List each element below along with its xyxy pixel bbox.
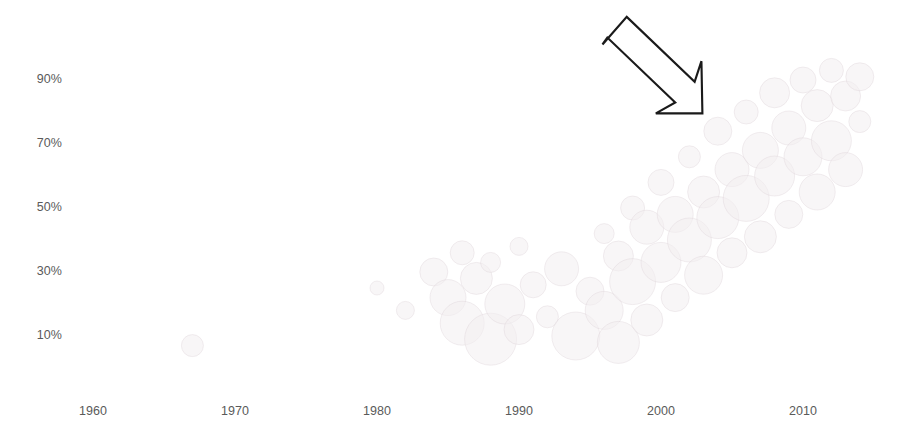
plot-area (0, 0, 907, 448)
bubble (610, 259, 656, 305)
bubble (742, 132, 778, 168)
bubble (723, 175, 769, 221)
x-axis-tick-label: 1970 (200, 405, 270, 418)
x-axis-tick-label: 1990 (484, 405, 554, 418)
y-axis-tick-label: 50% (18, 201, 62, 214)
bubble (430, 280, 466, 316)
bubble (597, 321, 639, 363)
bubble (450, 241, 474, 265)
bubble (585, 291, 623, 329)
bubble (760, 78, 790, 108)
bubble (520, 272, 546, 298)
bubble (697, 197, 739, 239)
bubble (420, 258, 448, 286)
bubble (396, 301, 414, 319)
bubble (641, 242, 681, 282)
bubble (846, 63, 874, 91)
bubble (667, 218, 711, 262)
bubble (510, 237, 528, 255)
bubble (717, 238, 747, 268)
bubble (603, 241, 633, 271)
bubble (831, 81, 861, 111)
bubble (772, 111, 806, 145)
bubble (688, 176, 720, 208)
bubble (621, 196, 645, 220)
bubble (775, 200, 803, 228)
x-axis-tick-label: 2010 (768, 405, 838, 418)
bubble (790, 67, 816, 93)
bubble (784, 138, 822, 176)
y-axis-tick-label: 70% (18, 137, 62, 150)
bubble (440, 301, 484, 345)
bubble (536, 306, 558, 328)
y-axis-tick-label: 30% (18, 265, 62, 278)
bubble (460, 262, 492, 294)
bubble (799, 174, 835, 210)
bubble (481, 252, 501, 272)
bubble (685, 256, 723, 294)
bubble (552, 312, 600, 360)
x-axis-tick-label: 1960 (58, 405, 128, 418)
bubble (829, 153, 863, 187)
bubble (181, 335, 203, 357)
bubble (545, 252, 579, 286)
bubble (485, 284, 525, 324)
bubble (661, 284, 689, 312)
x-axis-tick-label: 1980 (342, 405, 412, 418)
bubble (744, 221, 776, 253)
x-axis-tick-label: 2000 (626, 405, 696, 418)
bubble (678, 146, 700, 168)
bubble (594, 224, 614, 244)
bubble (630, 210, 664, 244)
bubble (631, 304, 663, 336)
bubble (370, 281, 384, 295)
bubble (504, 315, 534, 345)
y-axis-tick-label: 90% (18, 73, 62, 86)
bubble (849, 111, 871, 133)
bubble (755, 156, 795, 196)
bubble (811, 121, 851, 161)
bubble (465, 313, 517, 365)
bubble (648, 169, 674, 195)
bubble (819, 58, 843, 82)
bubble (801, 90, 833, 122)
bubble-chart-figure: 10%30%50%70%90% 196019701980199020002010 (0, 0, 907, 448)
y-axis-tick-label: 10% (18, 329, 62, 342)
bubble (704, 117, 732, 145)
bubble-layer (0, 0, 907, 448)
bubble (734, 100, 758, 124)
bubble (576, 277, 604, 305)
bubble (715, 153, 749, 187)
bubble (657, 196, 693, 232)
